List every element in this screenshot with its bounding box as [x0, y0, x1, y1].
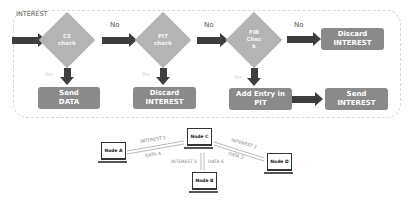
- node-a-laptop: Node A: [101, 142, 126, 163]
- laptop-icon: Node C: [187, 128, 212, 146]
- node-b-laptop: Node B: [192, 172, 217, 193]
- node-c-laptop: Node C: [187, 128, 212, 149]
- laptop-icon: Node A: [101, 142, 126, 160]
- node-d-laptop: Node D: [267, 153, 292, 174]
- link-label-interest-5: INTEREST 5: [171, 159, 197, 164]
- laptop-icon: Node B: [192, 172, 217, 190]
- laptop-icon: Node D: [267, 153, 292, 171]
- link-label-data-6: DATA 6: [208, 159, 224, 164]
